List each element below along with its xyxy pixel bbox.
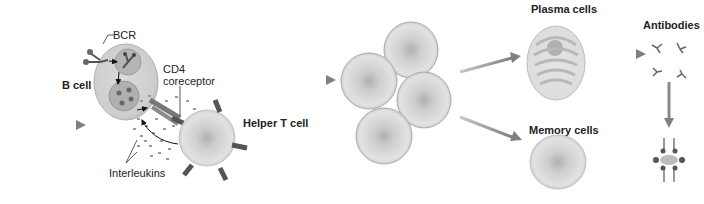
label-antibodies: Antibodies xyxy=(643,19,700,31)
b-cell-graphic xyxy=(83,35,158,120)
input-arrow xyxy=(0,120,86,130)
label-cd4: CD4 xyxy=(163,63,185,75)
label-interleukins: Interleukins xyxy=(109,167,165,179)
clonal-cells-graphic xyxy=(341,22,451,164)
label-bcr: BCR xyxy=(113,29,136,41)
antibodies-graphic xyxy=(652,43,686,78)
label-plasma-cells: Plasma cells xyxy=(531,3,597,15)
label-b-cell: B cell xyxy=(62,79,91,91)
memory-cell-graphic xyxy=(530,135,586,189)
plasma-cell-graphic xyxy=(527,26,585,100)
label-helper-t-cell: Helper T cell xyxy=(243,117,308,129)
diagram-canvas: BCR B cell CD4 coreceptor Helper T cell … xyxy=(0,0,704,204)
label-coreceptor: coreceptor xyxy=(163,75,215,87)
label-memory-cells: Memory cells xyxy=(529,124,599,136)
antigen-antibody-complex xyxy=(653,138,685,182)
diagram-graphics xyxy=(0,0,704,204)
helper-t-cell-graphic xyxy=(179,100,247,180)
